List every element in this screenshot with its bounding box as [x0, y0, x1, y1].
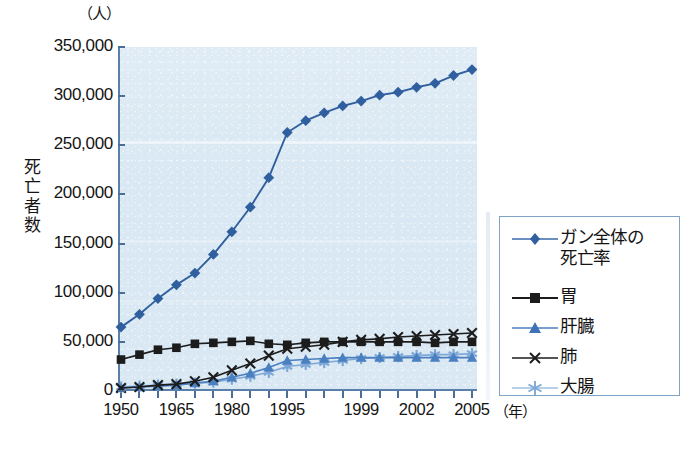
x-tick-label: 2005	[454, 400, 490, 419]
y-tick-mark	[118, 292, 125, 294]
x-tick-label: 2002	[399, 400, 435, 419]
x-tick-mark	[194, 391, 196, 398]
x-tick-mark	[138, 391, 140, 398]
chart-page: （人） 死 亡 者 数 050,000100,000150,000200,000…	[0, 0, 690, 451]
y-tick-label: 200,000	[54, 183, 113, 203]
x-tick-mark	[434, 391, 436, 398]
scan-artifact-band	[120, 300, 477, 303]
chart-legend[interactable]: ガン全体の 死亡率 胃 肝臓	[499, 216, 680, 396]
triangle-icon	[510, 318, 560, 338]
y-tick-mark	[118, 390, 125, 392]
x-tick-mark	[268, 391, 270, 398]
y-tick-mark	[118, 46, 125, 48]
x-tick-mark	[360, 391, 362, 398]
x-tick-label: 1999	[343, 400, 379, 419]
y-tick-mark	[118, 95, 125, 97]
y-tick-label: 150,000	[54, 233, 113, 253]
scan-artifact-band	[120, 240, 477, 243]
star-icon	[510, 378, 560, 398]
legend-label-total: ガン全体の 死亡率	[560, 226, 644, 270]
x-tick-mark	[175, 391, 177, 398]
plot-paper-texture	[120, 47, 477, 389]
x-tick-mark	[453, 391, 455, 398]
y-tick-mark	[118, 243, 125, 245]
legend-label-colon: 大腸	[560, 375, 593, 397]
x-tick-mark	[379, 391, 381, 398]
paper-edge-artifact	[486, 212, 490, 400]
x-axis-unit-label: （年）	[494, 400, 536, 421]
x-tick-mark	[157, 391, 159, 398]
legend-item-liver[interactable]: 肝臓	[510, 312, 671, 340]
y-axis-ticks: 050,000100,000150,000200,000250,000300,0…	[0, 0, 113, 451]
square-icon	[510, 288, 560, 308]
x-tick-mark	[397, 391, 399, 398]
y-tick-label: 350,000	[54, 36, 113, 56]
y-tick-label: 100,000	[54, 282, 113, 302]
legend-item-colon[interactable]: 大腸	[510, 372, 671, 400]
diamond-icon	[510, 229, 560, 249]
y-tick-mark	[118, 144, 125, 146]
y-tick-mark	[118, 341, 125, 343]
x-tick-mark	[416, 391, 418, 398]
y-tick-mark	[118, 193, 125, 195]
scan-artifact-band	[120, 141, 477, 144]
x-tick-mark	[231, 391, 233, 398]
plot-area	[118, 47, 477, 391]
y-tick-label: 300,000	[54, 85, 113, 105]
y-tick-label: 50,000	[63, 331, 113, 351]
legend-label-liver: 肝臓	[560, 315, 593, 337]
legend-label-lung: 肺	[560, 345, 577, 367]
x-tick-mark	[212, 391, 214, 398]
x-tick-mark	[471, 391, 473, 398]
x-tick-label: 1980	[214, 400, 250, 419]
x-tick-mark	[120, 391, 122, 398]
x-tick-mark	[342, 391, 344, 398]
x-tick-mark	[286, 391, 288, 398]
x-icon	[510, 348, 560, 368]
x-tick-mark	[305, 391, 307, 398]
legend-label-stomach: 胃	[560, 285, 577, 307]
legend-item-stomach[interactable]: 胃	[510, 282, 671, 310]
x-tick-label: 1965	[159, 400, 195, 419]
y-tick-label: 250,000	[54, 134, 113, 154]
legend-item-lung[interactable]: 肺	[510, 342, 671, 370]
legend-item-total[interactable]: ガン全体の 死亡率	[510, 226, 671, 280]
y-tick-label: 0	[104, 380, 113, 400]
x-tick-label: 1995	[269, 400, 305, 419]
x-tick-mark	[323, 391, 325, 398]
x-tick-label: 1950	[103, 400, 139, 419]
x-tick-mark	[249, 391, 251, 398]
